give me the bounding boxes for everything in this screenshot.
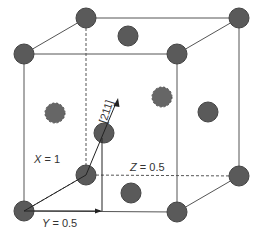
atoms xyxy=(14,8,249,222)
z-label: Z = 0.5 xyxy=(129,161,165,173)
atom-corner-back-top-right xyxy=(229,8,249,28)
atom-face-right xyxy=(198,102,218,122)
atom-corner-front-top-left xyxy=(14,44,34,64)
atom-face-left-hidden xyxy=(45,103,65,123)
y-label: Y = 0.5 xyxy=(42,217,77,229)
edge-top-right xyxy=(177,18,239,54)
atom-face-top xyxy=(118,26,138,46)
atom-corner-front-top-right xyxy=(167,44,187,64)
fcc-unit-cell-diagram: X = 1 Y = 0.5 Z = 0.5 [211] xyxy=(0,0,255,230)
edge-bottom-right xyxy=(177,176,239,212)
y-arrowhead-icon xyxy=(95,209,102,214)
edge-top-left xyxy=(24,18,86,54)
direction-211-line-lower xyxy=(24,175,86,211)
x-label: X = 1 xyxy=(33,153,60,165)
atom-corner-front-bottom-right xyxy=(167,202,187,222)
atom-face-bottom xyxy=(121,183,141,203)
atom-corner-back-top-left xyxy=(76,8,96,28)
atom-face-back-hidden xyxy=(152,87,172,107)
